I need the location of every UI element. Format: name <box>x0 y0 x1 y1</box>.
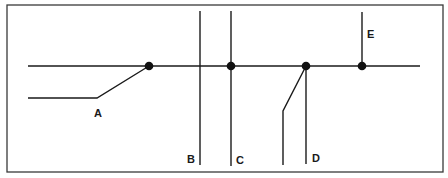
junction-d <box>302 62 311 71</box>
label-d: D <box>312 152 320 164</box>
label-b: B <box>187 153 195 165</box>
label-c: C <box>236 154 244 166</box>
junction-e <box>358 62 367 71</box>
branch-diagram: A B C D E <box>0 0 448 178</box>
diagram-frame <box>7 5 443 172</box>
junction-a <box>145 62 154 71</box>
label-e: E <box>367 28 374 40</box>
label-a: A <box>94 107 102 119</box>
junction-c <box>227 62 236 71</box>
